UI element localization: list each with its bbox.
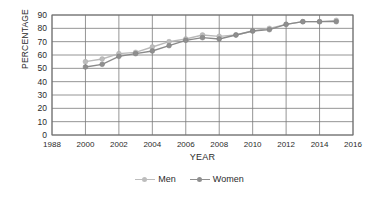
- x-tick-label: 2004: [143, 140, 161, 149]
- y-tick-label: 70: [38, 37, 48, 47]
- data-point-women: [83, 65, 88, 70]
- y-tick-label: 80: [38, 23, 48, 33]
- data-point-women: [284, 22, 289, 27]
- data-series-layer: [83, 18, 339, 69]
- y-tick-label: 10: [38, 117, 48, 127]
- x-tick-label: 1988: [43, 140, 61, 149]
- legend-label-men: Men: [158, 174, 176, 184]
- data-point-women: [317, 19, 322, 24]
- data-point-women: [183, 38, 188, 43]
- y-tick-label: 30: [38, 90, 48, 100]
- x-tick-label: 2006: [177, 140, 195, 149]
- x-axis-title: YEAR: [52, 152, 353, 162]
- data-point-women: [116, 54, 121, 59]
- x-tick-label: 2008: [210, 140, 228, 149]
- y-tick-label: 40: [38, 77, 48, 87]
- data-point-women: [250, 29, 255, 34]
- data-point-women: [100, 62, 105, 67]
- data-point-women: [334, 19, 339, 24]
- x-tick-label: 2016: [344, 140, 362, 149]
- y-tick-label: 20: [38, 103, 48, 113]
- plot-area: 0102030405060708090 19882000200220042006…: [0, 0, 379, 202]
- legend-item-women[interactable]: Women: [190, 174, 244, 184]
- y-axis-tick-labels: 0102030405060708090: [38, 10, 48, 140]
- x-tick-label: 2014: [311, 140, 329, 149]
- data-point-women: [133, 51, 138, 56]
- data-point-women: [267, 27, 272, 32]
- x-tick-label: 2010: [244, 140, 262, 149]
- data-point-women: [234, 33, 239, 38]
- legend-marker-women-icon: [190, 175, 210, 183]
- x-tick-label: 2000: [77, 140, 95, 149]
- data-point-women: [200, 35, 205, 40]
- y-tick-label: 60: [38, 50, 48, 60]
- data-point-women: [300, 19, 305, 24]
- legend-item-men[interactable]: Men: [135, 174, 176, 184]
- data-point-women: [217, 37, 222, 42]
- chart-legend: Men Women: [0, 174, 379, 184]
- y-tick-label: 0: [42, 130, 47, 140]
- x-axis-tick-labels: 1988200020022004200620082010201220142016: [43, 140, 362, 149]
- y-tick-label: 50: [38, 63, 48, 73]
- data-point-women: [150, 49, 155, 54]
- legend-label-women: Women: [213, 174, 244, 184]
- data-point-women: [167, 43, 172, 48]
- data-point-men: [83, 59, 88, 64]
- x-tick-label: 2002: [110, 140, 128, 149]
- y-tick-label: 90: [38, 10, 48, 20]
- legend-marker-men-icon: [135, 175, 155, 183]
- x-tick-label: 2012: [277, 140, 295, 149]
- data-point-men: [100, 57, 105, 62]
- line-chart: PERCENTAGE 0102030405060708090 198820002…: [0, 0, 379, 202]
